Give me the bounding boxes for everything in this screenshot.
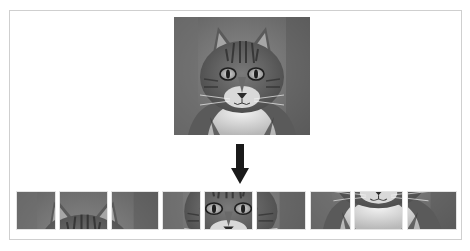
image-patch-9 [407, 191, 457, 230]
down-arrow-icon [230, 143, 250, 185]
image-patch-3 [111, 191, 159, 230]
image-patch-8 [354, 191, 403, 230]
source-cat-image [174, 17, 310, 135]
image-patch-6 [256, 191, 306, 230]
image-patch-2 [59, 191, 108, 230]
image-patch-7 [310, 191, 351, 230]
image-patch-1 [16, 191, 56, 230]
image-patch-5 [204, 191, 253, 230]
image-patch-4 [162, 191, 201, 230]
